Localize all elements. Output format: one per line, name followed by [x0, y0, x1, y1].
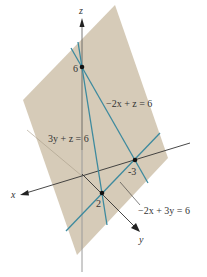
- trace-label-3y-z: 3y + z = 6: [48, 133, 89, 144]
- point-label-neg3: -3: [128, 166, 136, 177]
- plane-diagram: z x y 6 2 -3 3y + z = 6 −2x + z = 6 −2x …: [0, 0, 207, 277]
- trace-label-neg2x-3y: −2x + 3y = 6: [138, 205, 190, 216]
- x-axis-label: x: [10, 189, 16, 200]
- z-axis-arrow-icon: [80, 18, 85, 27]
- plane: [23, 5, 168, 255]
- z-axis-label: z: [78, 5, 83, 16]
- point-label-6: 6: [73, 63, 78, 74]
- y-axis-label: y: [138, 234, 144, 245]
- point-y-intercept: [100, 191, 105, 196]
- point-label-2: 2: [96, 198, 101, 209]
- trace-label-neg2x-z: −2x + z = 6: [106, 98, 152, 109]
- point-z-intercept: [80, 65, 85, 70]
- x-axis-arrow-icon: [20, 190, 29, 196]
- point-x-intercept: [133, 158, 138, 163]
